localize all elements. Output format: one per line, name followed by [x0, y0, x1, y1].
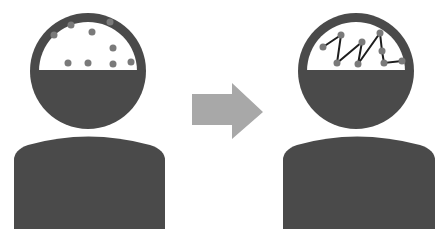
diagram-canvas: [0, 0, 442, 248]
right-person-icon: [283, 10, 435, 229]
dot: [399, 58, 406, 65]
dot: [320, 44, 327, 51]
dot: [128, 59, 135, 66]
dot: [379, 48, 386, 55]
arrow-right-icon: [192, 83, 263, 139]
dot: [89, 29, 96, 36]
right-body: [283, 137, 435, 230]
dot: [381, 60, 388, 67]
dot: [51, 32, 58, 39]
dot: [65, 60, 72, 67]
dot: [85, 60, 92, 67]
dot: [355, 61, 362, 68]
dot: [107, 19, 114, 26]
left-body: [14, 137, 165, 230]
dot: [110, 45, 117, 52]
left-person-icon: [14, 10, 165, 229]
dot: [377, 30, 384, 37]
dot: [68, 22, 75, 29]
dot: [359, 39, 366, 46]
dot: [338, 32, 345, 39]
dot: [334, 60, 341, 67]
dot: [110, 61, 117, 68]
